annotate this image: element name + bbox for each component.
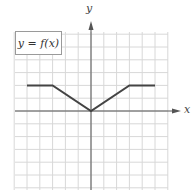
y-axis-arrow-icon: [89, 21, 94, 30]
function-label-box: y = f(x): [15, 31, 62, 55]
x-axis-label: x: [184, 103, 190, 116]
x-axis-arrow-icon: [172, 109, 181, 114]
y-axis-label: y: [86, 2, 92, 15]
function-label: y = f(x): [18, 37, 59, 50]
graph-canvas: [0, 0, 195, 190]
